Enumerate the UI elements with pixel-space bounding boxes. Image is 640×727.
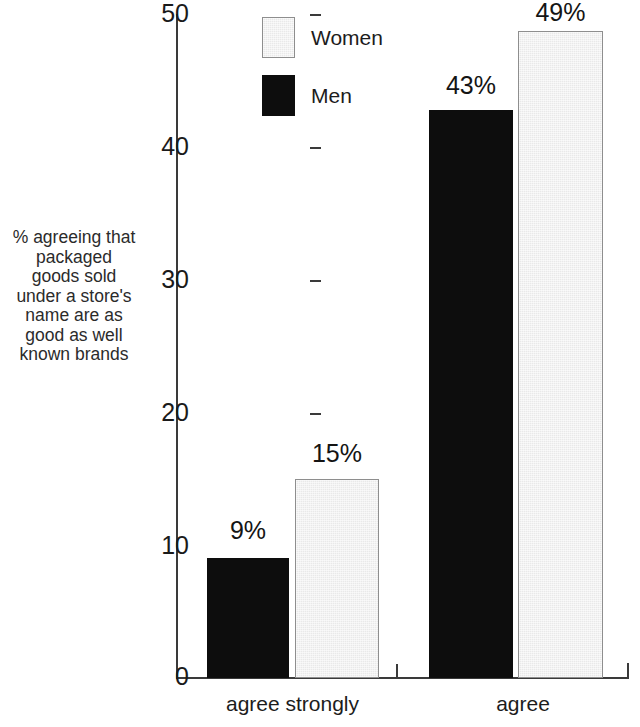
x-category-label-agree-strongly: agree strongly <box>205 692 380 716</box>
bar-value-label-women-agree: 49% <box>518 0 603 25</box>
x-category-label-agree: agree <box>443 692 603 716</box>
y-axis-label: % agreeing that packaged goods sold unde… <box>0 228 148 365</box>
y-axis-line <box>176 14 178 679</box>
y-tick-mark-20 <box>310 413 321 415</box>
legend-label-women: Women <box>311 27 383 48</box>
bar-men-agree[interactable] <box>429 110 513 678</box>
y-tick-mark-40 <box>310 147 321 149</box>
y-tick-0: 0 <box>132 677 189 679</box>
y-tick-label-30: 30 <box>153 267 189 292</box>
y-tick-20: 20 <box>132 413 189 415</box>
y-tick-label-0: 0 <box>153 664 189 689</box>
y-tick-50: 50 <box>132 14 189 16</box>
bar-women-agree-strongly[interactable] <box>295 479 379 678</box>
y-tick-mark-30 <box>310 280 321 282</box>
x-tick-separator <box>396 664 398 678</box>
bar-value-label-men-agree-strongly: 9% <box>207 518 289 543</box>
bar-women-agree[interactable] <box>518 31 603 678</box>
y-tick-mark-50 <box>310 14 321 16</box>
bar-men-agree-strongly[interactable] <box>207 558 289 678</box>
y-tick-label-50: 50 <box>153 1 189 26</box>
bar-value-label-men-agree: 43% <box>429 73 513 98</box>
bar-chart: % agreeing that packaged goods sold unde… <box>0 0 640 727</box>
y-tick-10: 10 <box>132 546 189 548</box>
legend-item-women[interactable]: Women <box>262 17 383 58</box>
legend-swatch-women-icon <box>262 17 295 58</box>
bar-value-label-women-agree-strongly: 15% <box>295 441 379 466</box>
y-tick-40: 40 <box>132 147 189 149</box>
legend-item-men[interactable]: Men <box>262 75 352 116</box>
y-tick-label-10: 10 <box>153 533 189 558</box>
y-tick-30: 30 <box>132 280 189 282</box>
legend-swatch-men-icon <box>262 75 295 116</box>
legend-label-men: Men <box>311 85 352 106</box>
y-tick-label-40: 40 <box>153 134 189 159</box>
y-tick-label-20: 20 <box>153 400 189 425</box>
x-tick-end <box>627 663 629 678</box>
